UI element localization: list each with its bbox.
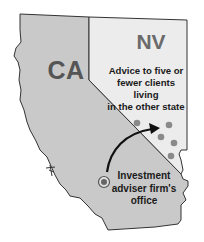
advice-line: in the other state <box>104 101 188 113</box>
advice-line: fewer clients living <box>104 77 188 101</box>
office-line: adviser firm's <box>110 183 178 196</box>
advice-line: Advice to five or <box>104 65 188 77</box>
advice-annotation: Advice to five or fewer clients living i… <box>104 65 188 113</box>
office-line: office <box>110 195 178 208</box>
state-label-nv: NV <box>126 30 176 54</box>
office-line: Investment <box>110 170 178 183</box>
state-label-ca: CA <box>36 56 96 85</box>
office-annotation: Investment adviser firm's office <box>110 170 178 208</box>
office-marker-icon <box>99 177 110 188</box>
